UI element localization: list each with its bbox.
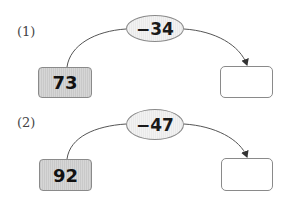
problem-label: (1)	[17, 24, 35, 39]
answer-box[interactable]	[221, 158, 273, 191]
start-number-box: 73	[38, 67, 92, 98]
operation-ellipse: −47	[126, 109, 184, 140]
start-number-box: 92	[39, 159, 92, 191]
problem-label: (2)	[17, 115, 35, 130]
problem-2: (2) −47 92	[0, 95, 289, 201]
problem-1: (1) −34 73	[0, 0, 289, 106]
operation-ellipse: −34	[126, 15, 184, 42]
answer-box[interactable]	[220, 66, 273, 98]
